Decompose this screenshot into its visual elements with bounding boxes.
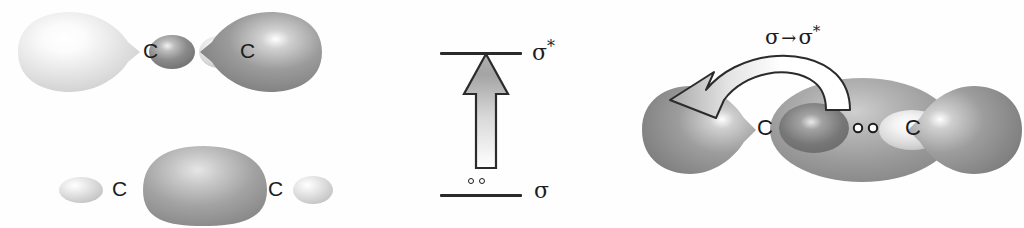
antibonding-orbital-drawing <box>0 0 320 105</box>
sigma-glyph: σ <box>532 40 547 65</box>
sigma-glyph: σ <box>534 178 549 203</box>
atom-label-carbon-left: C <box>143 40 158 61</box>
energy-level-sigma-label: σ <box>534 180 549 202</box>
orbital-lobe-large-right <box>200 12 322 92</box>
star-glyph: * <box>547 37 555 56</box>
electron-dot-1 <box>468 178 474 184</box>
panel-bonding-orbital: C C <box>55 140 345 228</box>
atom-label-carbon-left: C <box>757 117 773 139</box>
atom-label-carbon-right: C <box>905 117 921 139</box>
excitation-arrow-up <box>456 52 516 172</box>
atom-label-carbon-right: C <box>240 40 255 61</box>
orbital-lobe-large-left <box>18 12 140 92</box>
orbital-lobe-small-right <box>293 176 333 204</box>
atom-label-carbon-left: C <box>112 178 127 199</box>
electron-dot-2 <box>479 178 485 184</box>
orbital-lobe-bonding-center <box>143 146 267 226</box>
figure-canvas: C C <box>0 0 1024 228</box>
panel-antibonding-orbital: C C <box>0 0 320 105</box>
energy-level-sigma <box>440 194 522 197</box>
electron-dot-1 <box>854 124 862 132</box>
electron-dot-2 <box>869 124 877 132</box>
energy-level-sigma-star-label: σ* <box>532 39 555 64</box>
orbital-lobe-small-left <box>59 177 103 203</box>
bonding-orbital-drawing <box>55 140 345 228</box>
panel-energy-diagram: σ* σ <box>420 20 610 220</box>
panel-excitation: σ→σ* <box>640 0 1024 228</box>
atom-label-carbon-right: C <box>268 178 283 199</box>
excitation-orbital-drawing <box>640 38 1024 228</box>
